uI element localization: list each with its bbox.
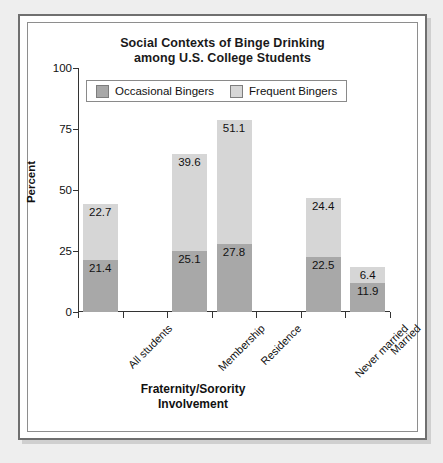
legend-swatch-icon [230,85,243,98]
bar-segment-occasional-bingers[interactable]: 11.9 [350,283,385,312]
x-tick-mark [256,312,257,318]
bar-value-label: 22.7 [83,206,118,218]
bar-value-label: 11.9 [350,285,385,297]
chart-title: Social Contexts of Binge Drinking among … [40,36,405,66]
x-tick-mark [212,312,213,318]
bar-value-label: 22.5 [306,259,341,271]
legend-entry[interactable]: Frequent Bingers [230,85,337,98]
y-axis-tick-labels: 0255075100 [34,68,72,312]
bar-stack[interactable]: 24.422.5 [306,198,341,312]
x-tick-mark [123,312,124,318]
x-tick-mark [78,312,79,318]
y-tick-label: 25 [38,245,72,257]
chart-title-line-1: Social Contexts of Binge Drinking [40,36,405,51]
bar-stack[interactable]: 51.127.8 [217,120,252,313]
bar-stack[interactable]: 22.721.4 [83,204,118,312]
bar-value-label: 6.4 [350,269,385,281]
y-tick-label: 75 [38,123,72,135]
bar-value-label: 25.1 [172,253,207,265]
bar-segment-occasional-bingers[interactable]: 21.4 [83,260,118,312]
bar-stack[interactable]: 39.625.1 [172,154,207,312]
bar-segment-frequent-bingers[interactable]: 51.1 [217,120,252,245]
x-axis-title: Fraternity/Sorority Involvement [78,382,308,412]
bar-segment-occasional-bingers[interactable]: 25.1 [172,251,207,312]
x-tick-mark [390,312,391,318]
x-tick-mark [167,312,168,318]
bar-segment-frequent-bingers[interactable]: 24.4 [306,198,341,258]
x-axis-title-line-1: Fraternity/Sorority [78,382,308,397]
legend-entry[interactable]: Occasional Bingers [96,85,214,98]
bar-value-label: 51.1 [217,122,252,134]
y-tick-label: 100 [38,62,72,74]
legend-label: Frequent Bingers [249,85,337,97]
bar-value-label: 27.8 [217,246,252,258]
bar-value-label: 21.4 [83,262,118,274]
chart-title-line-2: among U.S. College Students [40,51,405,66]
bar-stack[interactable]: 6.411.9 [350,267,385,312]
chart-page: Social Contexts of Binge Drinking among … [0,0,443,463]
legend-label: Occasional Bingers [115,85,214,97]
x-axis-title-line-2: Involvement [78,397,308,412]
x-tick-mark [345,312,346,318]
x-tick-mark [301,312,302,318]
bar-segment-occasional-bingers[interactable]: 27.8 [217,244,252,312]
bar-segment-frequent-bingers[interactable]: 6.4 [350,267,385,283]
legend-swatch-icon [96,85,109,98]
bar-segment-frequent-bingers[interactable]: 22.7 [83,204,118,259]
bar-value-label: 24.4 [306,200,341,212]
bar-value-label: 39.6 [172,156,207,168]
bar-segment-frequent-bingers[interactable]: 39.6 [172,154,207,251]
y-axis-title: Percent [25,142,37,222]
chart-legend: Occasional BingersFrequent Bingers [86,80,347,102]
bar-segment-occasional-bingers[interactable]: 22.5 [306,257,341,312]
y-tick-label: 50 [38,184,72,196]
y-tick-label: 0 [38,306,72,318]
plot-area: 22.721.439.625.151.127.824.422.56.411.9 [78,68,390,312]
